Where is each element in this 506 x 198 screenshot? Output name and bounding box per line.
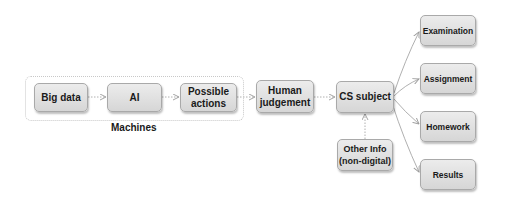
node-assignment: Assignment xyxy=(420,63,476,94)
edge-cs-examination xyxy=(394,32,419,93)
node-results: Results xyxy=(420,159,476,190)
edge-cs-results xyxy=(392,103,419,172)
machines-label: Machines xyxy=(111,122,157,133)
node-cs-subject: CS subject xyxy=(336,81,394,113)
node-possible-actions: Possible actions xyxy=(180,83,237,112)
node-ai: AI xyxy=(107,83,162,112)
node-homework: Homework xyxy=(420,111,476,142)
node-other-info: Other Info (non-digital) xyxy=(337,139,393,171)
node-human-judgement: Human judgement xyxy=(256,80,314,113)
node-examination: Examination xyxy=(420,15,476,46)
node-big-data: Big data xyxy=(34,83,88,112)
